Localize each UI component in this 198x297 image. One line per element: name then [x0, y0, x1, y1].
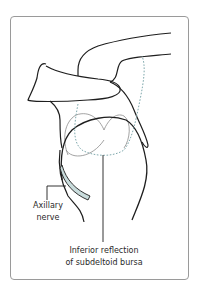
subdeltoid-bursa-label-line1: Inferior reflection — [58, 245, 150, 257]
coracoid-outline — [28, 64, 120, 102]
clavicle-upper-outline — [78, 33, 171, 76]
humeral-head-thin-outline — [65, 114, 130, 155]
acromion-lower-outline — [110, 54, 171, 82]
glenoid-outline — [110, 82, 148, 147]
axillary-nerve-label-line2: nerve — [28, 212, 68, 224]
axillary-nerve-label-line1: Axillary — [28, 200, 68, 212]
axillary-nerve-leader — [47, 186, 66, 200]
scapular-neck-outline — [50, 101, 62, 148]
humeral-head-thin-inner — [66, 140, 104, 156]
axillary-nerve — [60, 165, 90, 200]
subdeltoid-bursa-label: Inferior reflection of subdeltoid bursa — [58, 245, 150, 269]
subdeltoid-bursa-dotted — [75, 56, 144, 155]
axillary-nerve-label: Axillary nerve — [28, 200, 68, 224]
humeral-head-outline — [61, 117, 147, 220]
subdeltoid-bursa-label-line2: of subdeltoid bursa — [58, 257, 150, 269]
